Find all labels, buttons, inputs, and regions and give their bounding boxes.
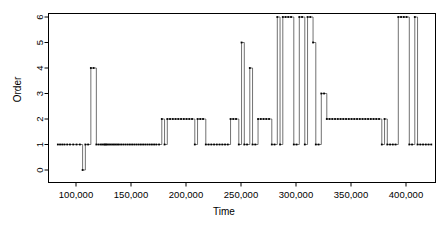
data-point bbox=[191, 118, 193, 120]
data-point bbox=[345, 118, 347, 120]
data-point bbox=[326, 118, 328, 120]
data-point bbox=[125, 144, 127, 146]
data-point bbox=[411, 144, 413, 146]
data-point bbox=[90, 67, 92, 69]
data-point bbox=[279, 144, 281, 146]
plot-frame bbox=[49, 14, 436, 183]
x-tick-label: 300,000 bbox=[279, 189, 313, 200]
data-point bbox=[133, 144, 135, 146]
data-point bbox=[395, 144, 397, 146]
data-point bbox=[72, 144, 74, 146]
data-point bbox=[151, 144, 153, 146]
data-point bbox=[331, 118, 333, 120]
data-point bbox=[115, 144, 117, 146]
data-point bbox=[202, 118, 204, 120]
data-point bbox=[342, 118, 344, 120]
data-point bbox=[296, 144, 298, 146]
data-point bbox=[238, 144, 240, 146]
data-point bbox=[367, 118, 369, 120]
x-tick-label: 200,000 bbox=[169, 189, 203, 200]
data-point bbox=[337, 118, 339, 120]
data-point bbox=[243, 144, 245, 146]
data-point bbox=[312, 42, 314, 44]
order-step-line bbox=[58, 17, 431, 170]
data-point bbox=[315, 144, 317, 146]
data-point bbox=[414, 16, 416, 18]
data-point bbox=[216, 144, 218, 146]
data-point bbox=[118, 144, 120, 146]
y-tick-label: 0 bbox=[34, 167, 45, 172]
data-point bbox=[241, 42, 243, 44]
data-point bbox=[304, 144, 306, 146]
data-point bbox=[82, 169, 84, 171]
data-point bbox=[149, 144, 151, 146]
data-point bbox=[334, 118, 336, 120]
data-point bbox=[370, 118, 372, 120]
data-point bbox=[375, 118, 377, 120]
data-point bbox=[127, 144, 129, 146]
data-point bbox=[301, 16, 303, 18]
data-point bbox=[268, 118, 270, 120]
data-point bbox=[210, 144, 212, 146]
data-point bbox=[138, 144, 140, 146]
data-point bbox=[180, 118, 182, 120]
data-point bbox=[230, 118, 232, 120]
data-point bbox=[155, 144, 157, 146]
data-point bbox=[153, 144, 155, 146]
data-point bbox=[285, 16, 287, 18]
data-point bbox=[164, 144, 166, 146]
data-point bbox=[136, 144, 138, 146]
data-point bbox=[108, 144, 110, 146]
data-point bbox=[199, 118, 201, 120]
y-tick-label: 2 bbox=[34, 116, 45, 121]
data-point bbox=[389, 144, 391, 146]
data-point bbox=[298, 16, 300, 18]
data-point bbox=[69, 144, 71, 146]
data-point bbox=[232, 118, 234, 120]
data-point bbox=[320, 93, 322, 95]
data-point bbox=[246, 144, 248, 146]
data-point bbox=[183, 118, 185, 120]
data-point bbox=[221, 144, 223, 146]
data-point bbox=[98, 144, 100, 146]
y-tick-label: 3 bbox=[34, 91, 45, 96]
data-point bbox=[307, 16, 309, 18]
data-point bbox=[265, 118, 267, 120]
x-tick-label: 250,000 bbox=[224, 189, 258, 200]
data-point bbox=[263, 118, 265, 120]
data-point bbox=[205, 144, 207, 146]
x-tick-label: 350,000 bbox=[334, 189, 368, 200]
data-point bbox=[340, 118, 342, 120]
data-point bbox=[84, 144, 86, 146]
data-point bbox=[197, 118, 199, 120]
data-point bbox=[364, 118, 366, 120]
data-point bbox=[351, 118, 353, 120]
data-point bbox=[166, 118, 168, 120]
data-point bbox=[309, 16, 311, 18]
data-point bbox=[113, 144, 115, 146]
data-point bbox=[428, 144, 430, 146]
data-point bbox=[417, 144, 419, 146]
data-point bbox=[356, 118, 358, 120]
data-point bbox=[422, 144, 424, 146]
y-tick-label: 6 bbox=[34, 14, 45, 19]
data-point bbox=[408, 144, 410, 146]
data-point bbox=[169, 118, 171, 120]
data-point bbox=[381, 144, 383, 146]
data-point bbox=[373, 118, 375, 120]
data-point bbox=[144, 144, 146, 146]
data-point bbox=[161, 118, 163, 120]
data-point bbox=[59, 144, 61, 146]
data-point bbox=[129, 144, 131, 146]
y-tick-label: 5 bbox=[34, 40, 45, 45]
data-point bbox=[271, 144, 273, 146]
data-point bbox=[323, 93, 325, 95]
data-point bbox=[100, 144, 102, 146]
data-point bbox=[140, 144, 142, 146]
data-point bbox=[224, 144, 226, 146]
data-point bbox=[177, 118, 179, 120]
data-point bbox=[400, 16, 402, 18]
data-point bbox=[208, 144, 210, 146]
data-point bbox=[353, 118, 355, 120]
data-point bbox=[66, 144, 68, 146]
